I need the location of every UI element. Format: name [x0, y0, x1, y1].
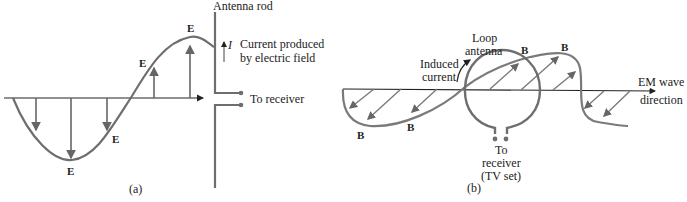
wave-label-line2: direction	[640, 94, 683, 107]
terminal-dot	[239, 91, 244, 96]
loop-label-line2: antenna	[465, 45, 502, 58]
panel-a-figure	[4, 12, 243, 188]
b-label: B	[521, 44, 528, 57]
b-field-vectors	[350, 57, 630, 119]
terminal-dot	[239, 103, 244, 108]
b-label: B	[357, 129, 364, 142]
propagation-axis	[343, 89, 655, 91]
e-label: E	[187, 22, 194, 35]
b-label: B	[407, 121, 414, 134]
current-symbol: I	[228, 39, 232, 52]
e-label: E	[67, 165, 74, 178]
receiver-line3: (TV set)	[481, 170, 521, 183]
b-label: B	[561, 41, 568, 54]
current-label-line1: Current produced	[240, 38, 324, 51]
antenna-rod-label: Antenna rod	[213, 0, 273, 13]
current-label-line2: by electric field	[240, 52, 315, 65]
caption-b: (b)	[467, 182, 481, 195]
diagram-canvas	[0, 0, 687, 202]
wave-label-line1: EM wave	[638, 76, 684, 89]
terminal-dot	[504, 137, 509, 142]
terminal-dot	[493, 137, 498, 142]
panel-b-figure	[343, 50, 655, 141]
receiver-label: To receiver	[250, 93, 304, 106]
caption-a: (a)	[129, 183, 142, 196]
e-label: E	[112, 133, 119, 146]
induced-label-line2: current	[422, 71, 456, 84]
loop-antenna	[465, 50, 540, 134]
top-cutoff-label: antenna	[497, 0, 534, 3]
e-label: E	[139, 57, 146, 70]
